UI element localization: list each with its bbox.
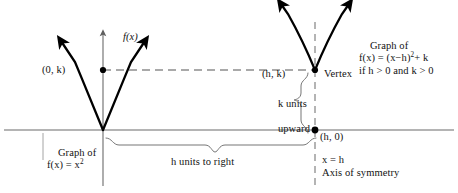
graph-basic-equation-label: Graph off(x) = x2 xyxy=(47,134,96,184)
graph-left-exponent: 2 xyxy=(80,158,84,166)
y-axis-label: f(x) xyxy=(112,18,138,56)
graph-right-line-3: if h > 0 and k > 0 xyxy=(359,65,434,76)
point-hk-vertex-dot xyxy=(312,67,318,73)
point-h0-dot xyxy=(312,127,319,134)
h-units-to-right-label: h units to right xyxy=(171,156,234,169)
vertex-label: Vertex xyxy=(324,68,352,81)
graph-right-line-1: Graph of xyxy=(370,40,408,51)
graph-left-line-1: Graph of xyxy=(58,147,96,158)
k-units-upward-label: k units upward xyxy=(267,85,310,148)
graph-translated-equation-label: Graph off(x) = (x−h)2+ kif h > 0 and k >… xyxy=(359,27,434,90)
parabola-translated-right-branch xyxy=(315,4,349,70)
graph-right-line-2b: h) xyxy=(402,52,411,63)
axis-of-symmetry-label: Axis of symmetry xyxy=(322,167,399,180)
graph-left-line-2: f(x) = x xyxy=(47,159,80,170)
k-units-line-1: k units xyxy=(278,98,307,109)
point-0k-label: (0, k) xyxy=(42,64,65,77)
k-units-line-2: upward xyxy=(278,123,310,134)
parabola-basic-left-branch xyxy=(61,41,103,130)
graph-right-line-2c: + k xyxy=(414,52,428,63)
parabola-translated-left-branch xyxy=(281,4,315,70)
graph-right-line-2a: f(x) = (x xyxy=(359,52,396,63)
point-h0-label: (h, 0) xyxy=(320,131,343,144)
parabola-translation-figure: f(x) (0, k) (h, k) Vertex k units upward… xyxy=(0,0,458,193)
point-0k-dot xyxy=(100,67,106,73)
point-hk-label: (h, k) xyxy=(262,68,285,81)
x-equals-h-label: x = h xyxy=(322,154,344,167)
